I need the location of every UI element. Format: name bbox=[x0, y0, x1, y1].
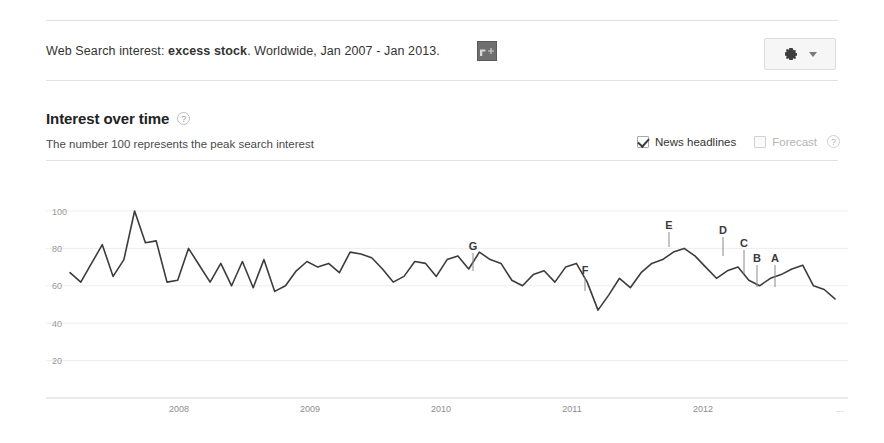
x-tick-label-2009: 2009 bbox=[300, 404, 320, 414]
help-icon[interactable]: ? bbox=[177, 112, 190, 125]
annotation-marker-C[interactable]: C bbox=[740, 237, 748, 249]
overflow-ellipsis: ... bbox=[836, 404, 844, 414]
interest-over-time-chart: 20406080100 20082009201020112012 ABCDEFG… bbox=[0, 180, 884, 420]
y-tick-label-100: 100 bbox=[52, 207, 67, 217]
toggle-news-headlines[interactable]: News headlines bbox=[637, 136, 736, 148]
title-prefix: Web Search interest: bbox=[46, 44, 168, 58]
title-suffix: . Worldwide, Jan 2007 - Jan 2013. bbox=[247, 44, 440, 58]
divider-top bbox=[46, 20, 838, 21]
trends-page: Web Search interest: excess stock. World… bbox=[0, 0, 884, 443]
annotation-marker-G[interactable]: G bbox=[469, 240, 478, 252]
checkbox-unchecked-icon[interactable] bbox=[754, 136, 766, 148]
x-tick-label-2010: 2010 bbox=[431, 404, 451, 414]
annotation-marker-E[interactable]: E bbox=[665, 219, 672, 231]
annotation-marker-F[interactable]: F bbox=[582, 264, 589, 276]
annotation-marker-B[interactable]: B bbox=[753, 252, 761, 264]
title-term: excess stock bbox=[168, 44, 247, 58]
page-title: Web Search interest: excess stock. World… bbox=[46, 44, 440, 58]
divider-header bbox=[46, 80, 838, 81]
y-tick-label-60: 60 bbox=[52, 281, 62, 291]
forecast-help-icon[interactable]: ? bbox=[827, 135, 840, 148]
chevron-down-icon bbox=[809, 52, 817, 57]
settings-button[interactable] bbox=[764, 38, 836, 70]
chart-svg: 20406080100 20082009201020112012 ABCDEFG… bbox=[0, 180, 884, 420]
section-subtitle: The number 100 represents the peak searc… bbox=[46, 138, 314, 150]
section-title: Interest over time? bbox=[46, 110, 190, 127]
chart-gridlines bbox=[46, 211, 848, 361]
section-title-text: Interest over time bbox=[46, 110, 169, 127]
chart-annotations: ABCDEFG bbox=[469, 219, 779, 291]
toggle-forecast-label: Forecast bbox=[772, 136, 817, 148]
checkbox-checked-icon[interactable] bbox=[637, 136, 649, 148]
toggle-news-headlines-label: News headlines bbox=[655, 136, 736, 148]
y-tick-label-20: 20 bbox=[52, 356, 62, 366]
google-share-thumbnail-icon[interactable] bbox=[477, 41, 497, 61]
y-tick-label-40: 40 bbox=[52, 319, 62, 329]
header-row: Web Search interest: excess stock. World… bbox=[46, 38, 838, 72]
chart-x-axis: 20082009201020112012 bbox=[169, 404, 713, 414]
toggle-forecast[interactable]: Forecast ? bbox=[754, 135, 840, 148]
gear-icon bbox=[783, 46, 799, 62]
x-tick-label-2011: 2011 bbox=[562, 404, 581, 414]
y-tick-label-80: 80 bbox=[52, 244, 62, 254]
annotation-marker-A[interactable]: A bbox=[771, 252, 779, 264]
annotation-marker-D[interactable]: D bbox=[719, 224, 727, 236]
divider-sub bbox=[46, 160, 838, 161]
chart-toggles: News headlines Forecast ? bbox=[637, 135, 840, 148]
x-tick-label-2012: 2012 bbox=[693, 404, 713, 414]
x-tick-label-2008: 2008 bbox=[169, 404, 189, 414]
